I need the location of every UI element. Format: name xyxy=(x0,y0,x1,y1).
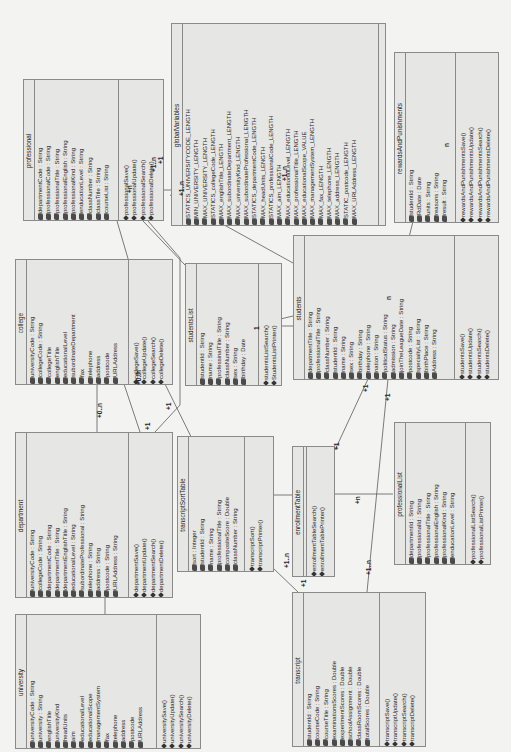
attribute: studentId : String xyxy=(198,439,206,571)
class-university[interactable]: university universityCode : String unive… xyxy=(15,614,201,749)
attribute: studentId : String xyxy=(407,55,415,222)
attribute-icon xyxy=(235,219,240,225)
class-college[interactable]: college universityCode : String collegeC… xyxy=(15,259,173,385)
attribute: postcode : String xyxy=(406,238,414,379)
class-globalVariables[interactable]: globalVariables STATICS_UNIVERSITYCODE_L… xyxy=(171,23,386,226)
attributes-section: universityCode : String collegeCode : St… xyxy=(27,433,129,598)
method-icon xyxy=(477,217,483,223)
method: transcriptSave() xyxy=(383,595,391,746)
attribute: collegeCode : String xyxy=(36,435,44,597)
attribute: MAX_UNIVERSITY_LENGTH xyxy=(201,26,209,225)
attribute-icon xyxy=(417,558,422,564)
attribute: totalScores : Double xyxy=(363,595,371,746)
attribute-icon xyxy=(225,379,230,385)
attribute-icon xyxy=(113,378,118,384)
attribute-icon xyxy=(87,214,92,220)
attribute-icon xyxy=(432,373,437,379)
class-name: transcript xyxy=(293,593,304,747)
attribute: departmentCode : String xyxy=(36,82,44,220)
attribute: professionalTitle : String xyxy=(424,425,432,564)
multiplicity-label: +1..n xyxy=(178,181,185,196)
attribute: name : String xyxy=(339,238,347,379)
method-icon xyxy=(249,566,255,572)
class-enrollmentTable[interactable]: enrollmentTable enrollmentTableSearch() … xyxy=(292,446,335,577)
attribute-icon xyxy=(277,219,282,225)
attribute: MIN_UNIVERSITY_LENGTH xyxy=(192,26,200,225)
attribute-icon xyxy=(88,742,93,748)
attribute-icon xyxy=(434,216,439,222)
methods-section: enrollmentTableSearch() enrollmentTableP… xyxy=(307,447,335,577)
attributes-section: departmentCode : String professionalCode… xyxy=(35,80,119,221)
attributes-section: studentId : String RdDate : Date units :… xyxy=(406,53,456,223)
method: studentsUpdate() xyxy=(466,238,474,379)
class-department[interactable]: department universityCode : String colle… xyxy=(15,432,173,598)
method: enrollmentTableSearch() xyxy=(310,449,318,576)
attribute-icon xyxy=(357,373,362,379)
method-icon xyxy=(132,215,138,221)
class-name: university xyxy=(16,615,27,749)
attribute: MAX_URLAddress_LENGTH xyxy=(350,26,358,225)
attribute: professionalEnglish : String xyxy=(61,82,69,220)
method-icon xyxy=(272,380,278,386)
attribute: compositeScore : Double xyxy=(223,439,231,571)
method: universityUpdate() xyxy=(168,617,176,748)
class-professional[interactable]: professional departmentCode : String pro… xyxy=(23,79,164,221)
class-name: professionalList xyxy=(395,423,406,565)
attribute-icon xyxy=(38,378,43,384)
attribute-icon xyxy=(208,565,213,571)
attribute-icon xyxy=(407,373,412,379)
attribute-icon xyxy=(316,373,321,379)
class-name: professional xyxy=(24,80,35,221)
attribute: universityCode : String xyxy=(28,435,36,597)
methods-section: universitySave() universityUpdate() univ… xyxy=(157,615,201,749)
attribute-icon xyxy=(241,379,246,385)
attribute: sex : String xyxy=(231,266,239,385)
multiplicity-label: +1 xyxy=(300,580,307,587)
attribute: departmentId : String xyxy=(407,425,415,564)
attribute: englishTitle xyxy=(53,262,61,384)
attributes-section: sort : Integer studentId : String name :… xyxy=(189,437,245,572)
attribute-icon xyxy=(46,378,51,384)
attribute-icon xyxy=(442,558,447,564)
attribute: units : String xyxy=(424,55,432,222)
class-professionalList[interactable]: professionalList departmentId : String p… xyxy=(394,422,491,565)
attribute: subordinateDepartment xyxy=(69,262,77,384)
attribute-icon xyxy=(71,742,76,748)
method: universityDelete() xyxy=(185,617,193,748)
class-transcriptSortTable[interactable]: transcriptSortTable sort : Integer stude… xyxy=(177,436,274,572)
method-icon xyxy=(469,217,475,223)
attribute: professionalEnglish : String xyxy=(432,425,440,564)
attribute-icon xyxy=(294,219,299,225)
method: rewardsAndPunishmentsDelete() xyxy=(484,55,492,222)
method-icon xyxy=(263,380,269,386)
class-students[interactable]: students depatmentTitle : String profess… xyxy=(293,235,499,380)
method: studentsSave() xyxy=(458,238,466,379)
attribute-icon xyxy=(129,742,134,748)
attribute: professionalCode : String xyxy=(44,82,52,220)
attribute-icon xyxy=(46,214,51,220)
attribute: MAX_educationalLevel_LENGTH xyxy=(284,26,292,225)
method: collegeSave() xyxy=(132,262,140,384)
method-icon xyxy=(479,559,485,565)
method: professionalListSearch() xyxy=(469,425,477,564)
attribute-icon xyxy=(79,742,84,748)
attribute-icon xyxy=(349,373,354,379)
multiplicity-label: +1 xyxy=(165,403,172,410)
multiplicity-label: +1 xyxy=(384,394,391,401)
multiplicity-label: +n xyxy=(354,496,361,504)
attributes-section: STATICS_UNIVERSITYCODE_LENGTH MIN_UNIVER… xyxy=(183,24,379,226)
attributes-section: studentId : String courseCode : String c… xyxy=(304,593,380,747)
attribute: managementSystem xyxy=(94,617,102,748)
attribute-icon xyxy=(252,219,257,225)
class-name: students xyxy=(294,236,305,380)
attribute-icon xyxy=(30,378,35,384)
attribute-icon xyxy=(348,740,353,746)
attribute-icon xyxy=(442,216,447,222)
method-icon xyxy=(468,374,474,380)
attribute: telephone : String xyxy=(86,435,94,597)
class-rewardsAndPunishments[interactable]: rewardsAndPunishments studentId : String… xyxy=(394,52,499,223)
attribute: MAX_professionalTitle_LENGTH xyxy=(292,26,300,225)
class-studentsList[interactable]: studentsList studentId : String name : S… xyxy=(185,263,282,386)
class-transcript[interactable]: transcript studentId : String courseCode… xyxy=(292,592,426,747)
method: studentsListSearch() xyxy=(262,266,270,385)
